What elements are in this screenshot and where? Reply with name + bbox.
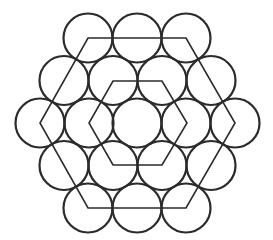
hexagonal-circle-packing-diagram <box>0 0 273 240</box>
